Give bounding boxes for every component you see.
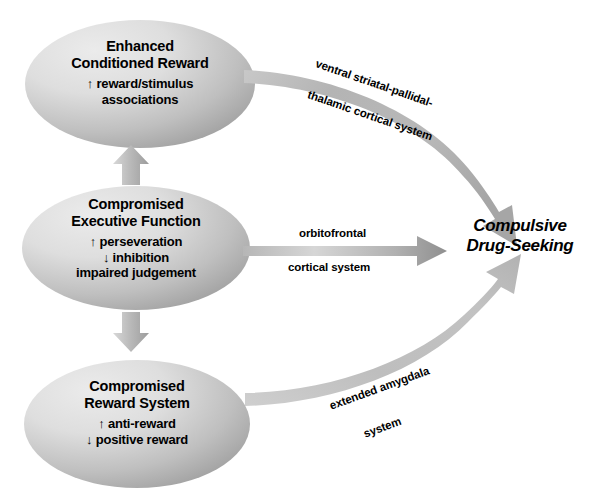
pathway-label-orbitofrontal-line1: orbitofrontal [299, 227, 366, 239]
pathway-label-orbitofrontal-line2: cortical system [288, 261, 370, 273]
node-compromised-reward-system[interactable] [24, 360, 250, 488]
diagram-canvas: Enhanced Conditioned Reward ↑ reward/sti… [0, 0, 605, 494]
outcome-label: Compulsive Drug-Seeking [440, 216, 600, 255]
node-compromised-executive-function[interactable] [22, 186, 250, 310]
outcome-line2: Drug-Seeking [440, 236, 600, 256]
connector-exec-to-reward-system-down [113, 312, 149, 352]
node-enhanced-conditioned-reward[interactable] [25, 20, 255, 148]
connector-exec-to-conditioned-reward-up [113, 145, 149, 185]
outcome-line1: Compulsive [440, 216, 600, 236]
